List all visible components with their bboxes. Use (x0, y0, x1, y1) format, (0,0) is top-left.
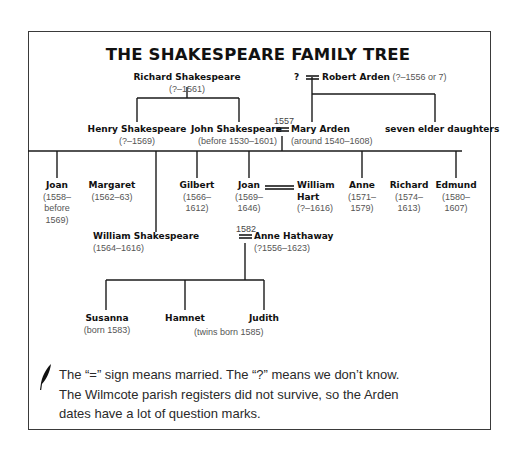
note-line-2: The Wilmcote parish registers did not su… (59, 385, 479, 405)
person-john-shakespeare: John Shakespeare (before 1530–1601) (191, 124, 277, 147)
quill-icon (39, 363, 53, 391)
person-susanna: Susanna (born 1583) (82, 313, 132, 336)
person-richard-shakespeare: Richard Shakespeare (?–1561) (127, 72, 247, 95)
person-mary-arden: Mary Arden (around 1540–1608) (291, 124, 391, 147)
twins-note: (twins born 1585) (194, 327, 264, 337)
legend-note: The “=” sign means married. The “?” mean… (59, 365, 479, 424)
person-william-shakespeare: William Shakespeare (1564–1616) (93, 231, 239, 254)
person-richard-1574: Richard (1574– 1613) (384, 180, 434, 215)
person-joan-1558: Joan (1558– before 1569) (37, 180, 77, 226)
person-gilbert: Gilbert (1566– 1612) (172, 180, 222, 215)
note-line-3: dates have a lot of question marks. (59, 404, 479, 424)
group-seven-elder-daughters: seven elder daughters (385, 124, 485, 136)
person-anne: Anne (1571– 1579) (342, 180, 382, 215)
note-line-1: The “=” sign means married. The “?” mean… (59, 365, 479, 385)
person-henry-shakespeare: Henry Shakespeare (?–1569) (87, 124, 187, 147)
person-judith: Judith (244, 313, 284, 325)
person-margaret: Margaret (1562–63) (82, 180, 142, 203)
person-anne-hathaway: Anne Hathaway (?1556–1623) (254, 231, 354, 254)
person-joan-1569: Joan (1569– 1646) (229, 180, 269, 215)
person-robert-arden: Robert Arden (?–1556 or 7) (322, 72, 446, 82)
person-edmund: Edmund (1580– 1607) (433, 180, 479, 215)
person-william-hart: William Hart (?–1616) (297, 180, 347, 215)
person-hamnet: Hamnet (160, 313, 210, 325)
person-unknown-wife: ? (294, 72, 299, 82)
